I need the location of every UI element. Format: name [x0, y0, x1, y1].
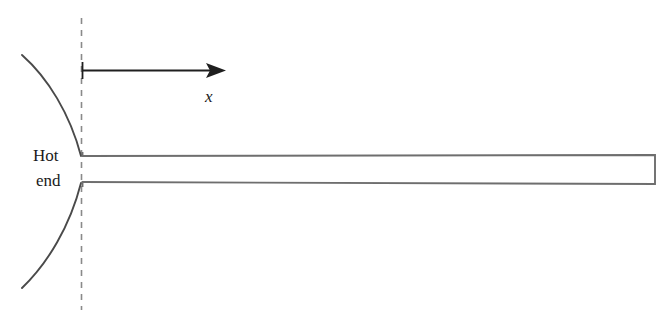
tapered-bar-outline [82, 155, 655, 184]
lower-curved-arc-icon [22, 183, 81, 288]
upper-curved-arc-icon [22, 55, 81, 156]
x-axis-label: x [205, 88, 213, 105]
hot-end-label-line2: end [36, 172, 61, 189]
hot-end-label-line1: Hot [33, 147, 59, 164]
diagram-canvas [0, 0, 668, 326]
heat-conduction-diagram: Hot end x [0, 0, 668, 326]
